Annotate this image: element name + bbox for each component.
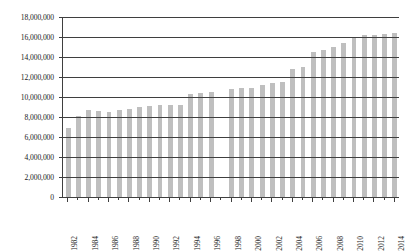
x-tick-mark [149, 197, 150, 202]
y-tick-mark [59, 137, 63, 138]
bar [352, 38, 357, 197]
bar [76, 116, 81, 197]
bar [86, 110, 91, 197]
x-tick-label: 2008 [336, 236, 345, 251]
bar [137, 107, 142, 197]
x-tick-label: 2002 [275, 236, 284, 251]
bar [321, 50, 326, 197]
x-tick-label: 2010 [356, 236, 365, 251]
bar [158, 105, 163, 197]
bar [96, 111, 101, 197]
x-tick-mark [159, 197, 160, 200]
x-tick-mark [98, 197, 99, 200]
x-tick-label: 1994 [193, 236, 202, 251]
bar [341, 43, 346, 197]
x-tick-label: 1992 [172, 236, 181, 251]
bar [147, 106, 152, 197]
x-tick-mark [312, 197, 313, 202]
bar [168, 105, 173, 197]
x-tick-label: 1996 [213, 236, 222, 251]
bars-layer [63, 17, 399, 197]
y-tick-mark [59, 17, 63, 18]
bar [301, 67, 306, 197]
x-tick-mark [333, 197, 334, 202]
y-tick-mark [59, 117, 63, 118]
y-tick-mark [59, 157, 63, 158]
x-tick-mark [373, 197, 374, 202]
x-tick-mark [200, 197, 201, 200]
y-tick-label: 8,000,000 [25, 113, 54, 122]
y-tick-label: 4,000,000 [25, 153, 54, 162]
x-tick-mark [241, 197, 242, 200]
y-tick-mark [59, 97, 63, 98]
y-tick-label: 10,000,000 [21, 93, 54, 102]
x-tick-label: 1990 [152, 236, 161, 251]
y-axis: 18,000,00016,000,00014,000,00012,000,000… [0, 0, 62, 240]
y-tick-label: 14,000,000 [21, 53, 54, 62]
x-tick-mark [210, 197, 211, 202]
x-tick-mark [139, 197, 140, 200]
x-tick-mark [128, 197, 129, 202]
bar [362, 35, 367, 197]
bar [178, 105, 183, 197]
x-tick-mark [353, 197, 354, 202]
x-tick-mark [322, 197, 323, 200]
bar [382, 34, 387, 197]
x-tick-mark [88, 197, 89, 202]
x-tick-mark [343, 197, 344, 200]
x-tick-label: 2014 [397, 236, 405, 251]
x-tick-mark [292, 197, 293, 202]
x-tick-mark [231, 197, 232, 202]
x-tick-mark [302, 197, 303, 200]
x-tick-mark [190, 197, 191, 202]
x-tick-label: 2012 [377, 236, 386, 251]
bar [311, 52, 316, 197]
bar [198, 93, 203, 197]
x-tick-mark [261, 197, 262, 200]
bar [290, 69, 295, 197]
bar [392, 33, 397, 197]
bar [280, 82, 285, 197]
x-tick-mark [169, 197, 170, 202]
bar [188, 94, 193, 197]
bar [209, 92, 214, 197]
bar [260, 85, 265, 197]
x-tick-mark [118, 197, 119, 200]
x-tick-mark [67, 197, 68, 202]
bar [127, 109, 132, 197]
bar [239, 88, 244, 197]
x-tick-mark [282, 197, 283, 200]
x-tick-label: 1988 [132, 236, 141, 251]
y-tick-mark [59, 57, 63, 58]
y-tick-mark [59, 177, 63, 178]
y-tick-mark [59, 77, 63, 78]
x-tick-mark [108, 197, 109, 202]
x-tick-mark [384, 197, 385, 200]
bar [229, 89, 234, 197]
y-tick-mark [59, 37, 63, 38]
bar [249, 88, 254, 197]
x-tick-label: 2004 [295, 236, 304, 251]
x-tick-mark [220, 197, 221, 200]
x-tick-label: 2000 [254, 236, 263, 251]
y-tick-label: 18,000,000 [21, 13, 54, 22]
y-tick-label: 6,000,000 [25, 133, 54, 142]
x-tick-label: 2006 [315, 236, 324, 251]
y-tick-label: 2,000,000 [25, 173, 54, 182]
x-tick-mark [394, 197, 395, 202]
x-tick-label: 1998 [234, 236, 243, 251]
y-tick-label: 0 [50, 193, 54, 202]
x-tick-mark [77, 197, 78, 200]
x-tick-label: 1982 [70, 236, 79, 251]
y-tick-label: 16,000,000 [21, 33, 54, 42]
x-tick-label: 1984 [91, 236, 100, 251]
bar [66, 128, 71, 197]
y-tick-label: 12,000,000 [21, 73, 54, 82]
bar [117, 110, 122, 197]
x-tick-mark [271, 197, 272, 202]
x-tick-mark [363, 197, 364, 200]
bar [270, 83, 275, 197]
x-axis: 1982198419861988199019921994199619982000… [62, 203, 399, 240]
bar [331, 47, 336, 197]
